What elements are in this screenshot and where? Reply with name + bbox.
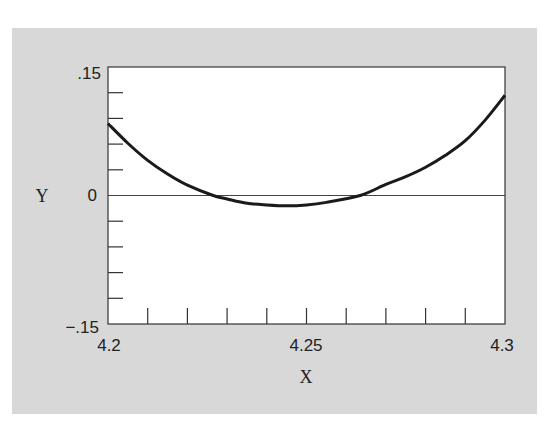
y-tick-label-zero: 0 bbox=[88, 186, 97, 205]
x-axis-title: X bbox=[300, 367, 313, 387]
y-axis-title: Y bbox=[36, 186, 49, 206]
x-tick-label-left: 4.2 bbox=[97, 336, 121, 355]
y-tick-label-bottom: −.15 bbox=[65, 318, 99, 337]
line-chart: .15 0 −.15 4.2 4.25 4.3 Y X bbox=[0, 0, 546, 431]
x-tick-label-mid: 4.25 bbox=[289, 336, 322, 355]
x-tick-label-right: 4.3 bbox=[490, 336, 514, 355]
y-tick-label-top: .15 bbox=[77, 64, 101, 83]
